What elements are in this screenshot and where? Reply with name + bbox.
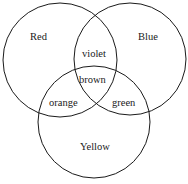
label-violet: violet (82, 48, 106, 59)
label-blue: Blue (138, 31, 158, 42)
label-orange: orange (49, 97, 78, 108)
label-yellow: Yellow (80, 141, 110, 152)
label-red: Red (30, 31, 48, 42)
venn-diagram: Red Blue violet brown orange green Yello… (0, 0, 188, 184)
label-brown: brown (79, 74, 107, 85)
label-green: green (112, 97, 136, 108)
